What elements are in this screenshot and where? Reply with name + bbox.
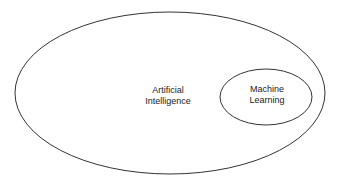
diagram-canvas: Artificial Intelligence Machine Learning	[0, 0, 338, 180]
ml-label-line1: Machine	[250, 84, 284, 94]
ai-label-line2: Intelligence	[145, 96, 191, 106]
ai-label-line1: Artificial	[152, 85, 184, 95]
ml-label-line2: Learning	[249, 95, 284, 105]
